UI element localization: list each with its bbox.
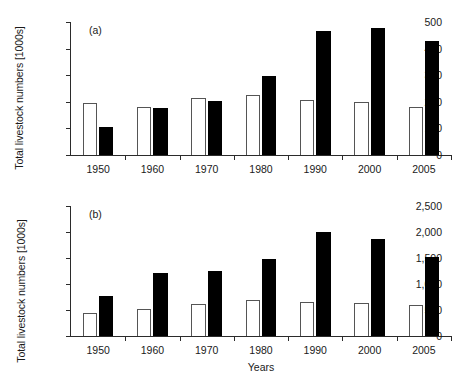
x-axis-tick [342, 336, 343, 341]
y-axis-tick [66, 336, 71, 337]
x-axis-tick-label: 2005 [412, 344, 435, 356]
x-axis-tick [180, 155, 181, 160]
chart-panel-a: Total livestock numbers [1000s] (a) 0100… [0, 0, 463, 196]
bar-filled-1990 [316, 31, 330, 155]
y-axis-tick [66, 310, 71, 311]
x-axis-title: Years [71, 361, 451, 373]
x-axis-tick [451, 155, 452, 160]
y-axis-tick [66, 75, 71, 76]
y-axis-tick [66, 155, 71, 156]
y-axis-tick [66, 284, 71, 285]
x-axis-tick [397, 155, 398, 160]
plot-area-a: (a) 010020030040050019501960197019801990… [70, 22, 451, 156]
x-axis-tick-label: 1950 [86, 163, 109, 175]
y-axis-tick [66, 22, 71, 23]
x-axis-tick [125, 336, 126, 341]
y-axis-title-a: Total livestock numbers [1000s] [13, 13, 25, 183]
bar-filled-1970 [208, 101, 222, 155]
bar-open-1990 [300, 100, 314, 155]
panel-label-a: (a) [89, 24, 102, 36]
bar-open-2000 [354, 102, 368, 155]
chart-panel-b: Total livestock numbers [1000s] (b) Year… [0, 190, 463, 391]
x-axis-tick [180, 336, 181, 341]
x-axis-tick-label: 2000 [358, 344, 381, 356]
bar-open-2000 [354, 303, 368, 336]
x-axis-tick [288, 155, 289, 160]
x-axis-tick [397, 336, 398, 341]
bar-filled-1960 [153, 108, 167, 155]
bar-filled-1990 [316, 232, 330, 336]
bar-open-1980 [246, 95, 260, 155]
y-axis-tick [66, 102, 71, 103]
x-axis-tick-label: 2000 [358, 163, 381, 175]
x-axis-tick-label: 1980 [249, 163, 272, 175]
bar-open-1960 [137, 107, 151, 155]
x-axis-tick [342, 155, 343, 160]
bar-filled-1960 [153, 273, 167, 336]
y-axis-tick [66, 258, 71, 259]
x-axis-tick-label: 1950 [86, 344, 109, 356]
y-axis-tick [66, 206, 71, 207]
y-axis-tick-label: 2,000 [416, 226, 442, 238]
x-axis-tick-label: 1960 [141, 344, 164, 356]
y-axis-tick [66, 232, 71, 233]
x-axis-tick-label: 1990 [304, 344, 327, 356]
bar-filled-1950 [99, 296, 113, 336]
bar-filled-1980 [262, 76, 276, 155]
x-axis-tick [288, 336, 289, 341]
bar-filled-1950 [99, 127, 113, 155]
x-axis-tick-label: 1970 [195, 344, 218, 356]
x-axis-tick [451, 336, 452, 341]
bar-open-1950 [83, 313, 97, 336]
bar-filled-2005 [425, 257, 439, 336]
figure-container: Total livestock numbers [1000s] (a) 0100… [0, 0, 463, 391]
bar-filled-1980 [262, 259, 276, 336]
bar-open-1970 [191, 98, 205, 155]
bar-open-1970 [191, 304, 205, 336]
bar-open-1950 [83, 103, 97, 155]
panel-label-b: (b) [89, 208, 102, 220]
x-axis-tick-label: 1960 [141, 163, 164, 175]
x-axis-tick [234, 336, 235, 341]
bar-filled-2005 [425, 41, 439, 155]
bar-filled-2000 [371, 239, 385, 336]
y-axis-tick-label: 500 [424, 16, 442, 28]
bar-filled-1970 [208, 271, 222, 336]
x-axis-tick-label: 1980 [249, 344, 272, 356]
bar-open-1960 [137, 309, 151, 336]
y-axis-tick [66, 128, 71, 129]
bar-open-2005 [409, 305, 423, 336]
x-axis-tick-label: 2005 [412, 163, 435, 175]
bar-filled-2000 [371, 28, 385, 155]
y-axis-title-b: Total livestock numbers [1000s] [15, 206, 27, 376]
bar-open-1980 [246, 300, 260, 336]
x-axis-tick [234, 155, 235, 160]
x-axis-tick-label: 1990 [304, 163, 327, 175]
x-axis-tick-label: 1970 [195, 163, 218, 175]
y-axis-tick [66, 49, 71, 50]
bar-open-2005 [409, 107, 423, 155]
plot-area-b: (b) Years 05001,0001,5002,0002,500195019… [70, 206, 451, 337]
y-axis-tick-label: 2,500 [416, 200, 442, 212]
bar-open-1990 [300, 302, 314, 336]
x-axis-tick [125, 155, 126, 160]
